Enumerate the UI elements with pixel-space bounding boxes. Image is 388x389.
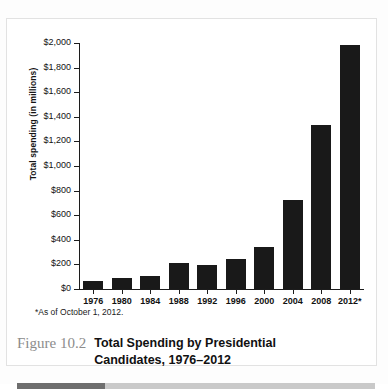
- y-tick-mark: [74, 117, 79, 118]
- y-tick-mark: [74, 43, 79, 44]
- x-tick-mark: [293, 290, 294, 294]
- y-tick-mark: [74, 264, 79, 265]
- bar: [340, 45, 360, 289]
- x-tick-label: 1996: [222, 296, 251, 306]
- y-tick-label: $1,000: [43, 160, 71, 170]
- bar: [283, 200, 303, 289]
- x-tick-mark: [236, 290, 237, 294]
- x-tick-label: 1992: [193, 296, 222, 306]
- y-tick-mark: [74, 240, 79, 241]
- x-tick-label: 2000: [250, 296, 279, 306]
- plot-area: $0$200$400$600$800$1,000$1,200$1,400$1,6…: [79, 43, 364, 289]
- y-tick-mark: [74, 191, 79, 192]
- x-tick-mark: [350, 290, 351, 294]
- x-tick-label: 1988: [165, 296, 194, 306]
- bar: [83, 281, 103, 289]
- y-tick-label: $1,600: [43, 86, 71, 96]
- chart-footnote: *As of October 1, 2012.: [35, 307, 123, 317]
- figure-frame: Total spending (in millions) $0$200$400$…: [6, 18, 377, 366]
- x-tick-mark: [122, 290, 123, 294]
- bar: [197, 265, 217, 289]
- y-tick-label: $600: [51, 209, 71, 219]
- y-tick-label: $1,200: [43, 135, 71, 145]
- caption-rule-dark: [17, 383, 105, 389]
- figure-title: Total Spending by Presidential Candidate…: [94, 335, 276, 369]
- y-tick-mark: [74, 289, 79, 290]
- y-tick-label: $2,000: [43, 37, 71, 47]
- y-tick-mark: [74, 68, 79, 69]
- chart-region: Total spending (in millions) $0$200$400$…: [7, 19, 378, 319]
- y-axis-title: Total spending (in millions): [28, 54, 38, 194]
- x-tick-label: 1980: [108, 296, 137, 306]
- x-tick-mark: [179, 290, 180, 294]
- bar: [169, 263, 189, 289]
- x-tick-mark: [150, 290, 151, 294]
- figure-number: Figure 10.2: [17, 335, 94, 352]
- x-tick-mark: [264, 290, 265, 294]
- y-tick-label: $200: [51, 258, 71, 268]
- y-tick-label: $0: [61, 283, 71, 293]
- x-tick-mark: [207, 290, 208, 294]
- y-tick-mark: [74, 215, 79, 216]
- x-tick-label: 1976: [79, 296, 108, 306]
- figure-title-line2: Candidates, 1976–2012: [94, 353, 231, 367]
- y-tick-mark: [74, 166, 79, 167]
- y-tick-mark: [74, 92, 79, 93]
- y-tick-label: $400: [51, 234, 71, 244]
- figure-title-line1: Total Spending by Presidential: [94, 336, 276, 350]
- y-tick-label: $1,400: [43, 111, 71, 121]
- x-tick-label: 2004: [279, 296, 308, 306]
- y-tick-mark: [74, 141, 79, 142]
- bar: [140, 276, 160, 289]
- bar: [112, 278, 132, 289]
- caption-rule: [17, 383, 375, 389]
- x-tick-mark: [321, 290, 322, 294]
- caption-rule-light: [105, 383, 375, 389]
- bar: [311, 125, 331, 289]
- y-axis-line: [79, 43, 80, 290]
- x-tick-mark: [93, 290, 94, 294]
- x-tick-label: 2012*: [336, 296, 365, 306]
- x-tick-label: 2008: [307, 296, 336, 306]
- bar: [226, 259, 246, 289]
- x-tick-label: 1984: [136, 296, 165, 306]
- y-tick-label: $1,800: [43, 62, 71, 72]
- figure-caption: Figure 10.2 Total Spending by Presidenti…: [17, 335, 375, 369]
- bar: [254, 247, 274, 289]
- y-tick-label: $800: [51, 185, 71, 195]
